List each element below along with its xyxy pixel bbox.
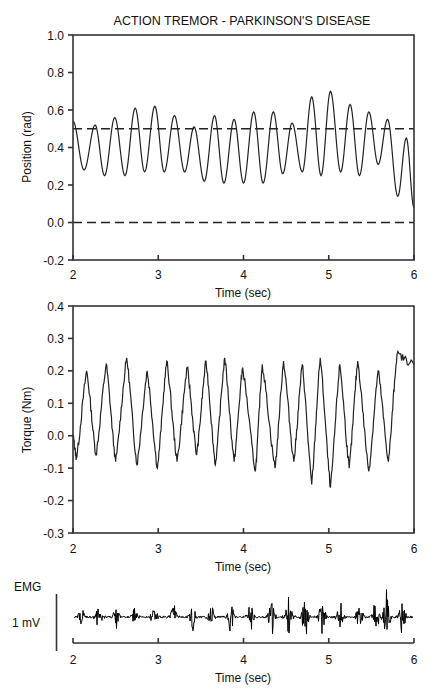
emg-trace: [74, 590, 413, 635]
x-tick-label: 6: [411, 542, 418, 556]
torque-panel: -0.3-0.2-0.10.00.10.20.30.4 23456 Torque…: [20, 300, 418, 575]
x-tick-label: 6: [411, 653, 418, 667]
x-tick-label: 2: [70, 268, 77, 282]
x-tick-label: 4: [240, 268, 247, 282]
x-tick-label: 3: [155, 653, 162, 667]
torque-y-axis-label: Torque (Nm): [20, 387, 34, 454]
position-trace: [73, 91, 414, 207]
y-tick-label: 0.4: [47, 141, 64, 155]
x-tick-label: 5: [325, 542, 332, 556]
y-tick-label: 0.4: [47, 300, 64, 314]
y-tick-label: -0.2: [43, 494, 64, 508]
x-tick-label: 3: [155, 542, 162, 556]
y-tick-label: 0.0: [47, 216, 64, 230]
y-tick-label: 0.8: [47, 66, 64, 80]
x-tick-label: 5: [325, 653, 332, 667]
x-tick-label: 2: [70, 653, 77, 667]
emg-x-axis-label: Time (sec): [215, 671, 271, 685]
y-tick-label: 0.0: [47, 429, 64, 443]
y-tick-label: 0.2: [47, 364, 64, 378]
y-tick-label: -0.2: [43, 254, 64, 268]
x-tick-label: 5: [325, 268, 332, 282]
x-tick-label: 6: [411, 268, 418, 282]
emg-label: EMG: [14, 580, 41, 594]
torque-y-ticks: -0.3-0.2-0.10.00.10.20.30.4: [43, 300, 73, 541]
emg-panel: EMG 1 mV 23456 Time (sec): [12, 580, 418, 685]
y-tick-label: -0.3: [43, 527, 64, 541]
torque-plot-frame: [73, 306, 414, 533]
x-tick-label: 2: [70, 542, 77, 556]
x-tick-label: 3: [155, 268, 162, 282]
y-tick-label: 0.2: [47, 179, 64, 193]
chart-title: ACTION TREMOR - PARKINSON'S DISEASE: [114, 14, 371, 28]
position-x-axis-label: Time (sec): [215, 286, 271, 300]
position-y-ticks: -0.20.00.20.40.60.81.0: [43, 29, 73, 268]
figure: ACTION TREMOR - PARKINSON'S DISEASE -0.2…: [0, 0, 434, 697]
y-tick-label: 0.3: [47, 332, 64, 346]
y-tick-label: 0.6: [47, 104, 64, 118]
position-x-ticks: 23456: [70, 255, 418, 282]
emg-scale-label: 1 mV: [12, 616, 40, 630]
position-panel: -0.20.00.20.40.60.81.0 23456 Position (r…: [20, 29, 418, 301]
y-tick-label: 0.1: [47, 397, 64, 411]
torque-x-axis-label: Time (sec): [215, 560, 271, 574]
y-tick-label: -0.1: [43, 462, 64, 476]
torque-trace: [73, 351, 414, 487]
x-tick-label: 4: [240, 542, 247, 556]
x-tick-label: 4: [240, 653, 247, 667]
y-tick-label: 1.0: [47, 29, 64, 43]
position-y-axis-label: Position (rad): [20, 111, 34, 182]
position-plot-frame: [73, 35, 414, 260]
